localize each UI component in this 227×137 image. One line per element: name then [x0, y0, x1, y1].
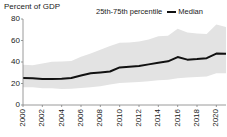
x-tick-2014: 2014: [154, 109, 162, 127]
x-tick-2020: 2020: [212, 109, 220, 127]
x-tick-2016: 2016: [174, 109, 182, 127]
x-tick-2018: 2018: [193, 109, 201, 127]
x-tick-2006: 2006: [77, 109, 85, 127]
x-tick-2012: 2012: [135, 109, 143, 127]
x-tick-2010: 2010: [116, 109, 124, 127]
x-axis-tick-labels: 2000200220042006200820102012201420162018…: [0, 0, 227, 137]
x-tick-2000: 2000: [19, 109, 27, 127]
x-tick-2004: 2004: [58, 109, 66, 127]
x-tick-2008: 2008: [96, 109, 104, 127]
chart-container: Percent of GDP 25th-75th percentile Medi…: [0, 0, 227, 137]
x-tick-2002: 2002: [38, 109, 46, 127]
